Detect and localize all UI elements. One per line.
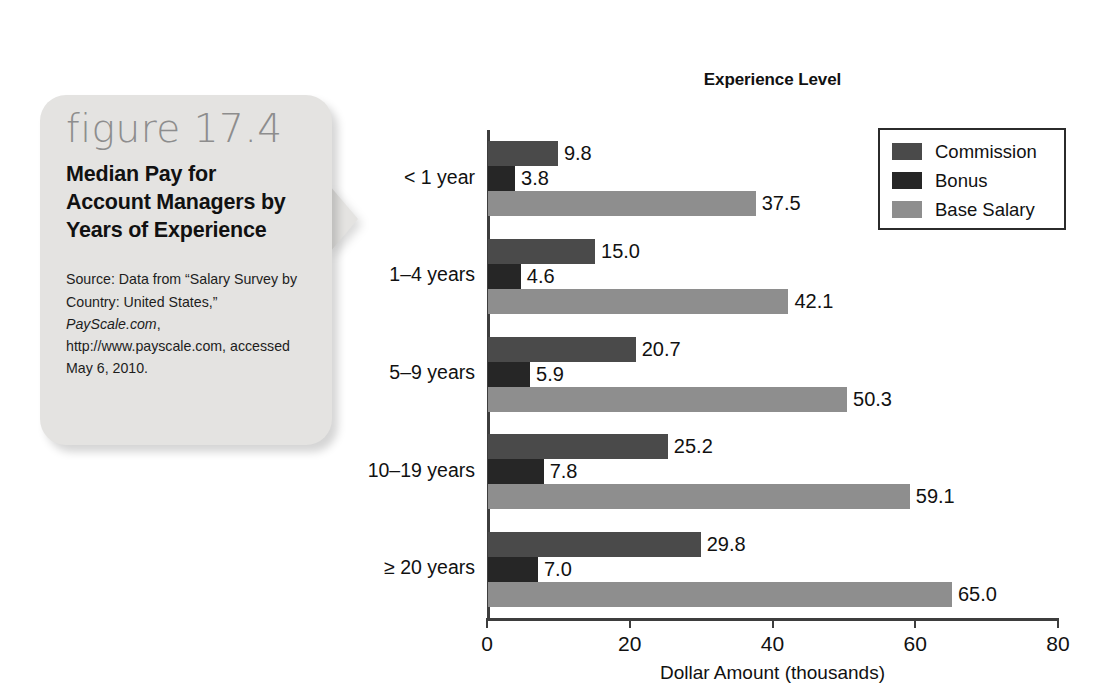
legend-item-commission[interactable]: Commission (892, 137, 1064, 166)
bar-value-label: 65.0 (958, 582, 997, 607)
bar-chart: Experience Level 020406080 < 1 year1–4 y… (0, 0, 1101, 694)
legend-label: Bonus (935, 170, 987, 192)
x-tick-mark (914, 618, 916, 628)
bar-value-label: 25.2 (674, 434, 713, 459)
bar-value-label: 37.5 (762, 191, 801, 216)
x-tick-label: 20 (618, 632, 641, 656)
bar-base-salary (488, 387, 847, 412)
y-axis-category-label: < 1 year (320, 166, 475, 189)
x-tick-mark (772, 618, 774, 628)
x-axis-title: Dollar Amount (thousands) (487, 662, 1058, 684)
bar-value-label: 42.1 (794, 289, 833, 314)
bar-bonus (488, 264, 521, 289)
bar-value-label: 50.3 (853, 387, 892, 412)
y-axis-category-label: 1–4 years (320, 263, 475, 286)
legend-label: Base Salary (935, 199, 1035, 221)
legend-label: Commission (935, 141, 1037, 163)
y-axis-category-label: ≥ 20 years (320, 556, 475, 579)
bar-value-label: 9.8 (564, 141, 592, 166)
bar-bonus (488, 459, 544, 484)
bar-commission (488, 337, 636, 362)
x-tick-label: 40 (761, 632, 784, 656)
bar-value-label: 20.7 (642, 337, 681, 362)
y-axis-category-label: 5–9 years (320, 361, 475, 384)
bar-value-label: 4.6 (527, 264, 555, 289)
bar-base-salary (488, 582, 952, 607)
x-tick-mark (629, 618, 631, 628)
bar-value-label: 15.0 (601, 239, 640, 264)
bar-base-salary (488, 191, 756, 216)
legend-item-bonus[interactable]: Bonus (892, 166, 1064, 195)
bar-bonus (488, 362, 530, 387)
bar-value-label: 59.1 (916, 484, 955, 509)
bar-commission (488, 532, 701, 557)
x-tick-label: 80 (1046, 632, 1069, 656)
chart-title: Experience Level (487, 70, 1058, 90)
bar-commission (488, 239, 595, 264)
legend-item-base-salary[interactable]: Base Salary (892, 195, 1064, 224)
bar-bonus (488, 166, 515, 191)
bar-base-salary (488, 484, 910, 509)
bar-base-salary (488, 289, 788, 314)
legend-swatch-icon (892, 201, 922, 218)
x-tick-mark (1057, 618, 1059, 628)
x-tick-label: 0 (481, 632, 493, 656)
bar-bonus (488, 557, 538, 582)
chart-legend: CommissionBonusBase Salary (878, 128, 1066, 230)
y-axis-category-label: 10–19 years (320, 459, 475, 482)
bar-commission (488, 141, 558, 166)
legend-swatch-icon (892, 143, 922, 160)
x-tick-mark (486, 618, 488, 628)
bar-value-label: 29.8 (707, 532, 746, 557)
bar-value-label: 7.8 (550, 459, 578, 484)
bar-commission (488, 434, 668, 459)
x-tick-label: 60 (904, 632, 927, 656)
legend-swatch-icon (892, 172, 922, 189)
bar-value-label: 5.9 (536, 362, 564, 387)
bar-value-label: 3.8 (521, 166, 549, 191)
bar-value-label: 7.0 (544, 557, 572, 582)
